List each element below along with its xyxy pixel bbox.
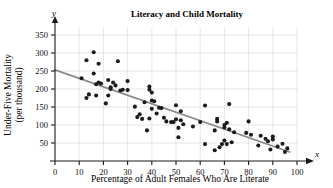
chart-canvas: 0102030405060708090100 50100150200250300… bbox=[0, 0, 333, 188]
data-point bbox=[266, 139, 270, 143]
data-point bbox=[232, 130, 236, 134]
data-point bbox=[268, 147, 272, 151]
data-point bbox=[152, 99, 156, 103]
y-tick-label-50: 50 bbox=[40, 138, 49, 148]
regression-line bbox=[55, 70, 290, 152]
y-axis-ticks bbox=[51, 35, 55, 143]
y-tick-label-350: 350 bbox=[35, 30, 48, 40]
data-point bbox=[140, 117, 144, 121]
data-point bbox=[213, 148, 217, 152]
data-point bbox=[181, 122, 185, 126]
y-tick-label-200: 200 bbox=[35, 84, 48, 94]
data-point bbox=[244, 131, 248, 135]
y-axis-tick-labels: 50100150200250300350 bbox=[35, 30, 48, 148]
data-point bbox=[191, 124, 195, 128]
data-point bbox=[215, 119, 219, 123]
data-point bbox=[276, 145, 280, 149]
data-point bbox=[259, 134, 263, 138]
x-tick-label-90: 90 bbox=[269, 167, 278, 177]
data-point bbox=[109, 87, 113, 91]
data-point bbox=[84, 58, 88, 62]
data-point bbox=[283, 150, 287, 154]
data-point bbox=[150, 107, 154, 111]
data-point bbox=[142, 100, 146, 104]
data-point bbox=[92, 50, 96, 54]
data-point bbox=[227, 127, 231, 131]
data-point bbox=[116, 59, 120, 63]
data-point bbox=[84, 96, 88, 100]
data-point bbox=[213, 128, 217, 132]
data-point bbox=[222, 138, 226, 142]
data-point bbox=[230, 140, 234, 144]
data-point bbox=[247, 119, 251, 123]
data-point bbox=[218, 145, 222, 149]
x-axis-variable-label: x bbox=[314, 149, 319, 159]
x-axis-ticks bbox=[55, 161, 297, 165]
data-point bbox=[176, 135, 180, 139]
y-tick-label-250: 250 bbox=[35, 66, 48, 76]
data-point bbox=[179, 109, 183, 113]
data-point bbox=[162, 116, 166, 120]
y-tick-label-150: 150 bbox=[35, 102, 48, 112]
x-tick-label-100: 100 bbox=[291, 167, 304, 177]
vertical-gridlines bbox=[79, 27, 297, 161]
data-point bbox=[164, 119, 168, 123]
data-point bbox=[106, 78, 110, 82]
scatter-plot-figure: 0102030405060708090100 50100150200250300… bbox=[0, 0, 333, 188]
data-point bbox=[271, 137, 275, 141]
data-point bbox=[99, 82, 103, 86]
data-point bbox=[280, 142, 284, 146]
data-point bbox=[147, 116, 151, 120]
y-axis-variable-label: y bbox=[51, 8, 56, 18]
data-point bbox=[249, 133, 253, 137]
data-point bbox=[145, 128, 149, 132]
data-point bbox=[256, 143, 260, 147]
x-axis-arrow-icon bbox=[306, 158, 314, 164]
x-tick-label-0: 0 bbox=[53, 167, 57, 177]
data-point bbox=[227, 102, 231, 106]
regression-trend-line bbox=[55, 70, 290, 152]
axes-group bbox=[50, 16, 314, 164]
data-point bbox=[106, 93, 110, 97]
data-point bbox=[220, 142, 224, 146]
data-point bbox=[150, 91, 154, 95]
data-point bbox=[159, 106, 163, 110]
data-points-group bbox=[80, 50, 290, 154]
data-point bbox=[225, 142, 229, 146]
chart-title: Literacy and Child Mortality bbox=[131, 9, 244, 19]
data-point bbox=[155, 111, 159, 115]
data-point bbox=[113, 83, 117, 87]
x-axis-title: Percentage of Adult Females Who Are Lite… bbox=[91, 174, 269, 184]
horizontal-gridlines bbox=[55, 35, 298, 143]
data-point bbox=[87, 92, 91, 96]
data-point bbox=[203, 142, 207, 146]
data-point bbox=[179, 118, 183, 122]
data-point bbox=[203, 104, 207, 108]
data-point bbox=[92, 71, 96, 75]
data-point bbox=[94, 93, 98, 97]
data-point bbox=[104, 101, 108, 105]
data-point bbox=[285, 146, 289, 150]
y-axis-title-line1: Under-Five Mortality bbox=[3, 54, 13, 136]
y-tick-label-100: 100 bbox=[35, 120, 48, 130]
data-point bbox=[174, 103, 178, 107]
data-point bbox=[97, 62, 101, 66]
data-point bbox=[222, 125, 226, 129]
data-point bbox=[138, 112, 142, 116]
data-point bbox=[80, 76, 84, 80]
data-point bbox=[225, 121, 229, 125]
data-point bbox=[121, 88, 125, 92]
y-tick-label-300: 300 bbox=[35, 48, 48, 58]
data-point bbox=[126, 88, 130, 92]
x-tick-label-10: 10 bbox=[75, 167, 84, 177]
data-point bbox=[174, 117, 178, 121]
data-point bbox=[133, 105, 137, 109]
y-axis-title-line2: (per thousand) bbox=[14, 67, 25, 122]
data-point bbox=[126, 79, 130, 83]
data-point bbox=[198, 120, 202, 124]
data-point bbox=[176, 126, 180, 130]
